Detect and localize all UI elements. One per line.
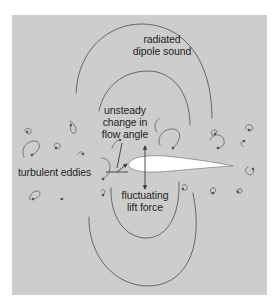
panel-background bbox=[12, 15, 267, 295]
sound-label-line-2: dipole sound bbox=[130, 45, 194, 57]
flow-angle-label-line-1: unsteady bbox=[100, 104, 150, 116]
unsteady-flow-angle-label: unsteady change in flow angle bbox=[100, 104, 150, 140]
eddies-label-line-1: turbulent eddies bbox=[18, 166, 90, 178]
turbulent-eddies-label: turbulent eddies bbox=[18, 166, 90, 178]
sound-label-line-1: radiated bbox=[130, 33, 194, 45]
lift-label-line-2: lift force bbox=[120, 201, 170, 213]
lift-label-line-1: fluctuating bbox=[120, 189, 170, 201]
flow-angle-label-line-2: change in bbox=[100, 116, 150, 128]
fluctuating-lift-force-label: fluctuating lift force bbox=[120, 189, 170, 213]
radiated-dipole-sound-label: radiated dipole sound bbox=[130, 33, 194, 57]
flow-angle-label-line-3: flow angle bbox=[100, 128, 150, 140]
